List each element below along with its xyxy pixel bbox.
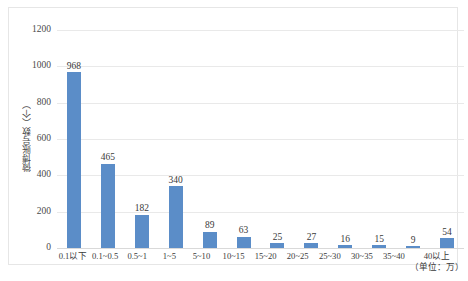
x-axis-labels: 0.1以下0.1~0.50.5~11~55~1010~1515~2020~252…: [57, 251, 464, 273]
y-tick-label: 400: [37, 171, 51, 181]
y-tick-label: 1200: [32, 25, 51, 35]
x-tick-label: 1~5: [153, 251, 185, 273]
y-tick-label: 600: [37, 134, 51, 144]
bar-category: 25: [261, 30, 295, 248]
bar-value-label: 27: [307, 233, 317, 243]
x-tick-label: 35~40: [378, 251, 410, 273]
bar[interactable]: 27: [304, 243, 318, 248]
bar-category: 968: [57, 30, 91, 248]
bar-category: 465: [91, 30, 125, 248]
bar-value-label: 54: [442, 228, 452, 238]
x-tick-label: 25~30: [314, 251, 346, 273]
x-tick-label: 0.5~1: [121, 251, 153, 273]
bar-category: 16: [328, 30, 362, 248]
bar-value-label: 16: [341, 235, 351, 245]
chart-container: 微博账号数（个） 1200 1000 800 600 400 200 0 968…: [8, 7, 458, 265]
y-tick-label: 200: [37, 207, 51, 217]
x-axis-unit-note: （单位：万）: [410, 262, 464, 273]
bar-value-label: 25: [273, 233, 283, 243]
bar[interactable]: 340: [169, 186, 183, 248]
bar-category: 27: [294, 30, 328, 248]
bar[interactable]: 25: [270, 243, 284, 248]
bar-category: 54: [430, 30, 464, 248]
x-tick-label: 40以上（单位：万）: [410, 251, 464, 273]
bar-value-label: 968: [67, 62, 81, 72]
bar[interactable]: 15: [372, 245, 386, 248]
bar-category: 89: [193, 30, 227, 248]
x-tick-label: 0.1~0.5: [89, 251, 121, 273]
bar-value-label: 340: [169, 176, 183, 186]
axis-baseline: [57, 248, 464, 249]
x-tick-label: 5~10: [185, 251, 217, 273]
x-tick-label: 30~35: [346, 251, 378, 273]
bar[interactable]: 16: [338, 245, 352, 248]
y-tick-label: 800: [37, 98, 51, 108]
plot-area: 1200 1000 800 600 400 200 0 968465182340…: [57, 30, 464, 248]
bar-value-label: 63: [239, 226, 249, 236]
bar-value-label: 465: [101, 153, 115, 163]
x-tick-label: 10~15: [217, 251, 249, 273]
bar-category: 63: [227, 30, 261, 248]
bar[interactable]: 63: [237, 237, 251, 248]
bar-value-label: 9: [411, 236, 416, 246]
bar-category: 182: [125, 30, 159, 248]
x-tick-label: 15~20: [250, 251, 282, 273]
bar[interactable]: 9: [406, 246, 420, 248]
x-tick-label: 20~25: [282, 251, 314, 273]
bar-category: 340: [159, 30, 193, 248]
bar-category: 15: [362, 30, 396, 248]
bar[interactable]: 182: [135, 215, 149, 248]
bar-value-label: 15: [375, 235, 385, 245]
bar-value-label: 182: [135, 204, 149, 214]
bar-series: 968465182340896325271615954: [57, 30, 464, 248]
y-tick-label: 1000: [32, 62, 51, 72]
bar-value-label: 89: [205, 221, 215, 231]
x-tick-label: 0.1以下: [57, 251, 89, 273]
bar-category: 9: [396, 30, 430, 248]
bar[interactable]: 465: [101, 164, 115, 248]
y-tick-label: 0: [46, 243, 51, 253]
bar[interactable]: 968: [67, 72, 81, 248]
y-axis-title: 微博账号数（个）: [21, 100, 33, 172]
bar[interactable]: 54: [440, 238, 454, 248]
bar[interactable]: 89: [203, 232, 217, 248]
